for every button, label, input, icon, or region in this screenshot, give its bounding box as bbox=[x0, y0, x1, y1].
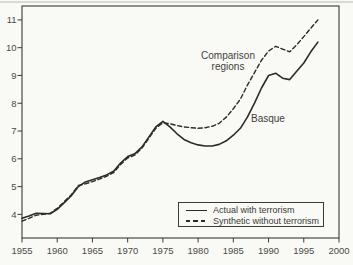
x-tick-label: 1985 bbox=[223, 245, 244, 256]
annotation-basque: Basque bbox=[251, 114, 285, 125]
y-tick-label: 11 bbox=[7, 14, 17, 25]
x-tick-label: 1965 bbox=[82, 245, 103, 256]
solid-line-swatch bbox=[186, 210, 207, 212]
x-tick-label: 1990 bbox=[258, 245, 279, 256]
y-tick-label: 6 bbox=[11, 153, 16, 164]
series-line-actual bbox=[22, 42, 318, 218]
x-tick-label: 1995 bbox=[293, 245, 314, 256]
legend-item-actual: Actual with terrorism bbox=[186, 205, 323, 215]
y-tick-label: 9 bbox=[11, 70, 16, 81]
x-tick-label: 1955 bbox=[11, 245, 32, 256]
y-tick-label: 10 bbox=[6, 42, 17, 53]
annotation-comparison-regions: Comparison regions bbox=[189, 51, 267, 72]
legend-label-synthetic: Synthetic without terrorism bbox=[213, 216, 319, 226]
y-tick-label: 4 bbox=[11, 209, 16, 220]
y-tick-label: 7 bbox=[11, 125, 16, 136]
legend-item-synthetic: Synthetic without terrorism bbox=[186, 216, 323, 226]
x-tick-label: 1960 bbox=[47, 245, 68, 256]
y-tick-label: 8 bbox=[11, 98, 16, 109]
x-tick-label: 1975 bbox=[152, 245, 173, 256]
legend: Actual with terrorism Synthetic without … bbox=[178, 202, 324, 227]
x-tick-label: 2000 bbox=[328, 245, 349, 256]
chart-figure: 4567891011195519601965197019751980198519… bbox=[0, 0, 353, 265]
dashed-line-swatch bbox=[186, 220, 207, 222]
legend-label-actual: Actual with terrorism bbox=[213, 205, 295, 215]
x-tick-label: 1970 bbox=[117, 245, 138, 256]
x-tick-label: 1980 bbox=[188, 245, 209, 256]
y-tick-label: 5 bbox=[11, 181, 16, 192]
